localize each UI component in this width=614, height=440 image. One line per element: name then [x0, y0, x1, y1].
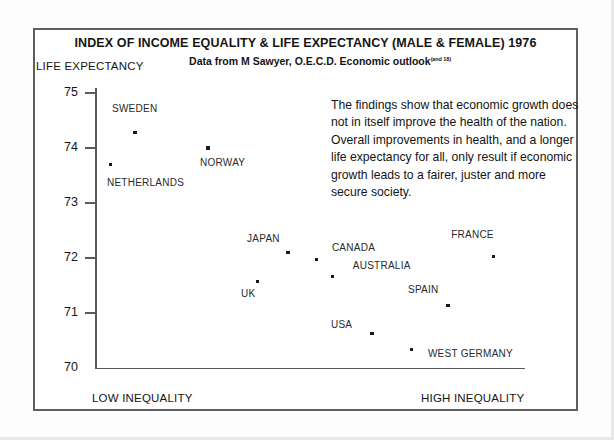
x-axis-high-label: HIGH INEQUALITY	[421, 392, 524, 404]
chart-frame	[33, 28, 578, 411]
chart-title: INDEX OF INCOME EQUALITY & LIFE EXPECTAN…	[33, 36, 578, 50]
x-axis-low-label: LOW INEQUALITY	[92, 392, 193, 404]
y-axis-title: LIFE EXPECTANCY	[36, 60, 144, 72]
chart-subtitle-text: Data from M Sawyer, O.E.C.D. Economic ou…	[189, 55, 431, 67]
annotation-text: The findings show that economic growth d…	[331, 97, 579, 201]
chart-subtitle: Data from M Sawyer, O.E.C.D. Economic ou…	[130, 55, 510, 67]
scanned-page: INDEX OF INCOME EQUALITY & LIFE EXPECTAN…	[0, 0, 614, 440]
chart-subtitle-superscript: (and 18)	[431, 56, 451, 62]
